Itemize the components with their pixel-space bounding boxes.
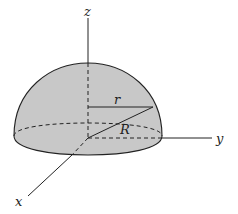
diagram-canvas: z y x r R xyxy=(0,0,238,214)
x-axis xyxy=(28,155,72,196)
z-axis-label: z xyxy=(83,4,91,19)
y-axis-label: y xyxy=(215,131,224,146)
sphere-radius-label: R xyxy=(119,122,130,137)
x-axis-label: x xyxy=(15,194,23,209)
hemisphere-diagram: z y x r R xyxy=(0,0,238,214)
slice-radius-label: r xyxy=(114,92,121,107)
